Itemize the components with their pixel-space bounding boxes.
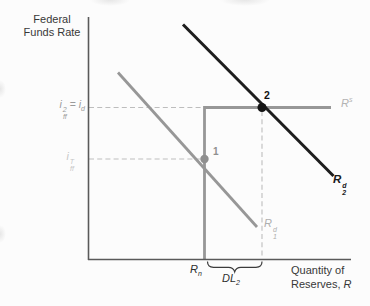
- discount-rate-sup: 2: [63, 106, 67, 113]
- demand2-label-sup: d: [342, 182, 346, 189]
- demand1-label-base: R: [264, 217, 272, 229]
- x-axis-title: Quantity of Reserves, R: [291, 264, 352, 291]
- x-axis-title-line2: Reserves, R: [291, 278, 352, 292]
- discount-rate-sub: ff: [63, 113, 67, 120]
- demand-curve-1-label: Rd1: [264, 217, 277, 240]
- federal-funds-market-diagram: Federal Funds Rate i2ff = id iTff Rs Rd2…: [0, 0, 370, 306]
- equilibrium-point-1: [200, 155, 208, 163]
- y-axis-title-line1: Federal: [18, 13, 86, 26]
- dl2-base: DL: [222, 272, 236, 284]
- x-axis-title-line1: Quantity of: [291, 264, 352, 278]
- point-1-label: 1: [213, 146, 219, 157]
- equilibrium-point-2: [258, 103, 267, 112]
- target-rate-supsub: Tff: [70, 158, 74, 172]
- demand1-label-sup: d: [273, 226, 277, 233]
- demand2-supsub: d2: [342, 182, 346, 196]
- discount-rate-rhs-sub: d: [81, 105, 85, 112]
- demand2-label-sub: 2: [342, 189, 346, 196]
- supply-curve-label: Rs: [341, 96, 352, 109]
- discount-rate-label: i2ff = id: [10, 98, 85, 120]
- demand-curve-2-label: Rd2: [333, 173, 347, 196]
- target-rate-sub: ff: [70, 165, 74, 172]
- dl2-sub: 2: [236, 279, 240, 286]
- equals-sign: =: [70, 98, 76, 110]
- demand1-label-sub: 1: [273, 233, 277, 240]
- rn-base: R: [190, 263, 198, 275]
- nonborrowed-reserves-label: Rn: [190, 263, 202, 277]
- reserve-demand-curve-1: [118, 73, 257, 228]
- discount-loans-label: DL2: [222, 272, 240, 286]
- supply-label-base: R: [341, 97, 349, 109]
- target-rate-sup: T: [70, 158, 74, 165]
- target-rate-label: iTff: [10, 150, 74, 172]
- demand1-supsub: d1: [273, 226, 277, 240]
- y-axis-title: Federal Funds Rate: [18, 13, 86, 39]
- discount-rate-supsub: 2ff: [63, 106, 67, 120]
- target-rate-base: i: [66, 150, 68, 162]
- dl2-brace: [208, 262, 263, 272]
- demand2-label-base: R: [333, 173, 341, 185]
- supply-label-sup: s: [349, 96, 353, 103]
- point-2-label: 2: [264, 89, 270, 101]
- y-axis-title-line2: Funds Rate: [18, 26, 86, 39]
- discount-rate-base: i: [60, 98, 62, 110]
- rn-sub: n: [198, 270, 202, 277]
- x-axis-title-line2-text: Reserves,: [291, 278, 344, 290]
- x-axis-title-line2-var: R: [344, 278, 352, 290]
